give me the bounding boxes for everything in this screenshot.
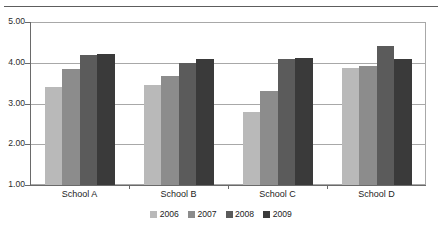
bar [243,112,261,185]
bar [278,59,296,185]
bar [359,66,377,185]
bar [80,55,98,185]
legend-swatch-icon [188,211,195,218]
legend-swatch-icon [150,211,157,218]
y-axis-tick-label: 1.00 [1,180,25,189]
legend-swatch-icon [263,211,270,218]
bar [144,85,162,185]
legend-label: 2006 [160,210,179,219]
category-label: School B [129,190,228,199]
bar [260,91,278,185]
bar-chart: 1.002.003.004.005.00 School ASchool BSch… [0,0,442,230]
bar [97,54,115,185]
legend-label: 2008 [235,210,254,219]
bar [377,46,395,185]
chart-legend: 2006200720082009 [0,210,442,219]
category-label: School C [228,190,327,199]
legend-item-2007[interactable]: 2007 [188,210,217,219]
bar [394,59,412,185]
bar [196,59,214,185]
y-axis-tick-label: 3.00 [1,99,25,108]
y-axis-tick-label: 5.00 [1,17,25,26]
y-axis-tick-label: 2.00 [1,139,25,148]
bar [179,63,197,185]
legend-item-2006[interactable]: 2006 [150,210,179,219]
legend-label: 2007 [197,210,216,219]
legend-item-2008[interactable]: 2008 [226,210,255,219]
category-label: School D [327,190,426,199]
top-divider-rule [4,6,438,7]
bar [295,58,313,185]
bar [342,68,360,185]
x-tick [228,185,229,189]
bar [62,69,80,185]
bar [161,76,179,185]
bar [45,87,63,185]
legend-swatch-icon [226,211,233,218]
y-axis-tick-label: 4.00 [1,58,25,67]
legend-item-2009[interactable]: 2009 [263,210,292,219]
x-tick [129,185,130,189]
gridline [30,22,426,23]
legend-label: 2009 [273,210,292,219]
category-label: School A [30,190,129,199]
y-axis-line [30,22,31,185]
x-tick [327,185,328,189]
